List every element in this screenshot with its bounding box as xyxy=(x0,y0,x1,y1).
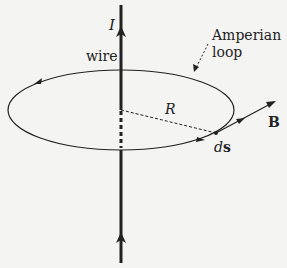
loop-direction-arrow-left xyxy=(34,78,42,84)
amperian-label-line2: loop xyxy=(212,44,242,60)
ds-label-s: s xyxy=(223,139,231,155)
b-field-label: B xyxy=(268,114,280,130)
ds-label-d: d xyxy=(214,139,223,155)
b-field-vector xyxy=(216,102,274,133)
wire-label: wire xyxy=(86,48,117,64)
amperian-label-line1: Amperian xyxy=(211,27,281,43)
amperian-pointer xyxy=(196,44,208,68)
b-field-arrowhead xyxy=(266,101,276,108)
radius-label: R xyxy=(164,101,176,117)
ampere-law-diagram: I wire Amperian loop R B d s xyxy=(0,0,287,268)
amperian-pointer-head xyxy=(193,64,199,72)
b-field-mid-arrow xyxy=(236,118,245,124)
current-label: I xyxy=(108,16,116,34)
